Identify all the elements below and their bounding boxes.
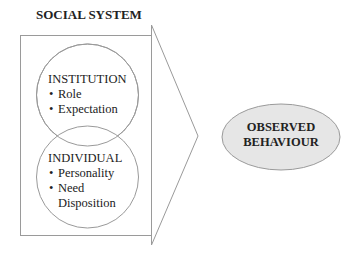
individual-item-need-continuation: Disposition: [48, 196, 122, 211]
institution-item-expectation: Expectation: [48, 102, 126, 117]
individual-item-need: Need: [48, 181, 122, 196]
diagram-title: SOCIAL SYSTEM: [36, 7, 142, 23]
institution-label: INSTITUTION Role Expectation: [48, 72, 126, 117]
institution-heading: INSTITUTION: [48, 72, 126, 87]
arrow-shape: [152, 25, 199, 245]
institution-list: Role Expectation: [48, 87, 126, 117]
individual-list: Personality Need Disposition: [48, 166, 122, 211]
individual-label: INDIVIDUAL Personality Need Disposition: [48, 151, 122, 211]
individual-item-personality: Personality: [48, 166, 122, 181]
observed-behaviour-line2: BEHAVIOUR: [222, 135, 340, 150]
observed-behaviour-label: OBSERVED BEHAVIOUR: [222, 120, 340, 150]
institution-item-role: Role: [48, 87, 126, 102]
individual-heading: INDIVIDUAL: [48, 151, 122, 166]
observed-behaviour-line1: OBSERVED: [222, 120, 340, 135]
